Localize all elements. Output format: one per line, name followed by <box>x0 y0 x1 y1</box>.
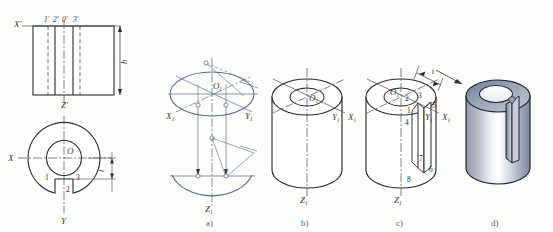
step-c-point-label-5: 5 <box>432 101 436 110</box>
step-d-slot-side <box>512 96 519 163</box>
front-view-x-axis-label: X' <box>13 19 22 29</box>
step-a-caption: a) <box>206 218 213 228</box>
step-c-point-label-6: 6 <box>429 165 433 174</box>
step-a-point-bottom-right <box>224 174 228 178</box>
bottom-point-label-1: 1 <box>45 173 49 182</box>
height-dimension-label: h <box>119 59 129 64</box>
step-c-point-label-4: 4 <box>405 118 409 127</box>
front-point-label-2: 2' <box>53 15 59 24</box>
step-c-point-label-7: 7 <box>419 154 423 163</box>
bottom-point-label-3: 3 <box>76 173 80 182</box>
technical-drawing-figure: X' Z' h 1' 2' 0' 3' X Y O t 1 2 3 <box>0 0 553 232</box>
step-a-point-top <box>204 61 208 65</box>
step-d-caption: d) <box>491 218 499 228</box>
step-c-point-label-1: 1 <box>407 106 411 115</box>
step-a-point-ellipse-left <box>196 103 200 107</box>
bottom-view-center-label: O <box>67 146 74 156</box>
step-d-slot-face <box>506 101 512 163</box>
step-c-point-label-3: 3 <box>418 91 422 100</box>
step-c-caption: c) <box>396 218 403 228</box>
step-b-caption: b) <box>301 218 309 228</box>
step-d-bore <box>480 86 513 103</box>
front-point-label-0: 0' <box>62 15 68 24</box>
step-c-point-label-2: 2 <box>405 94 409 103</box>
front-point-label-1: 1' <box>44 15 50 24</box>
step-c-point-label-8: 8 <box>407 175 411 184</box>
step-a-point-bottom-left <box>196 174 200 178</box>
step-a-point-ellipse-right <box>224 103 228 107</box>
front-point-label-3: 3' <box>72 15 79 24</box>
bottom-view-x-axis-label: X <box>7 153 14 163</box>
bottom-point-label-2: 2 <box>66 185 70 194</box>
front-view-z-axis-label: Z' <box>61 100 69 110</box>
